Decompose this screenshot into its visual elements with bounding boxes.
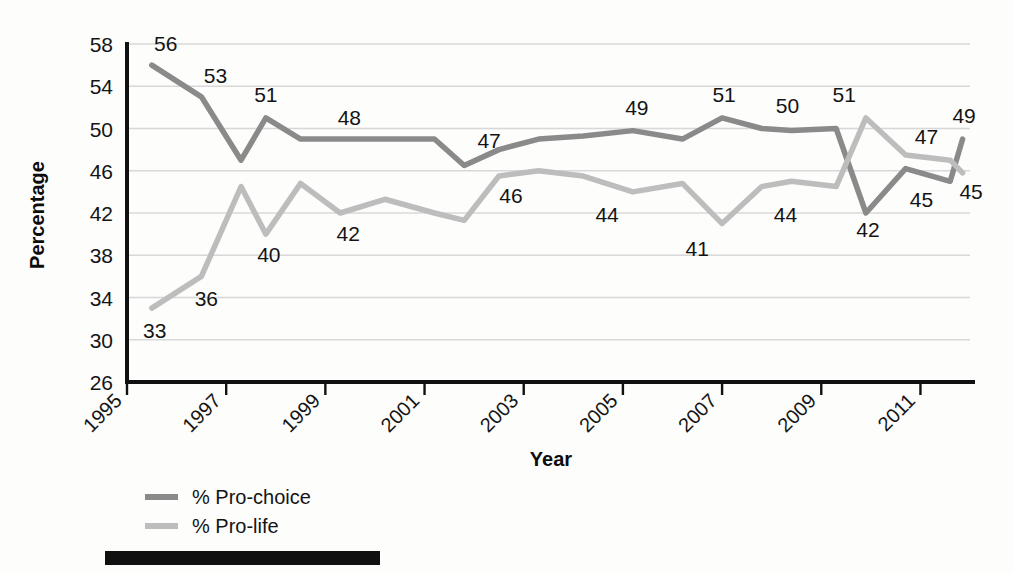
y-tick-label: 42 (90, 202, 113, 225)
chart-container: 585450464238343026 199519971999200120032… (0, 0, 1013, 573)
data-point-label: 51 (712, 83, 735, 106)
y-tick-label: 38 (90, 244, 113, 267)
data-point-label: 44 (595, 203, 619, 226)
x-tick-label: 2001 (376, 389, 423, 436)
data-point-label: 41 (686, 237, 709, 260)
data-point-label: 46 (499, 184, 522, 207)
y-tick-label: 34 (90, 287, 114, 310)
y-tick-label: 46 (90, 160, 113, 183)
x-tick-label: 1997 (178, 389, 225, 436)
data-point-label: 42 (856, 218, 879, 241)
legend: % Pro-choice% Pro-life (145, 486, 311, 537)
legend-label: % Pro-choice (192, 486, 311, 508)
x-tick-label: 2005 (575, 389, 622, 436)
x-tick-label: 2003 (476, 389, 523, 436)
data-point-label: 40 (257, 243, 280, 266)
footer-rule (105, 551, 380, 565)
data-point-label: 47 (477, 129, 500, 152)
data-point-label: 36 (195, 287, 218, 310)
data-point-label: 51 (254, 83, 277, 106)
y-axis-tick-labels: 585450464238343026 (90, 33, 114, 394)
x-tick-label: 1995 (79, 389, 126, 436)
data-point-label: 56 (154, 32, 177, 55)
data-point-label: 45 (959, 180, 982, 203)
legend-label: % Pro-life (192, 515, 279, 537)
data-point-label: 44 (774, 203, 798, 226)
y-tick-label: 54 (90, 75, 114, 98)
x-tick-label: 1999 (277, 389, 324, 436)
y-tick-label: 30 (90, 329, 113, 352)
data-point-label: 49 (952, 104, 975, 127)
x-axis-title: Year (530, 448, 572, 470)
x-axis-tick-labels: 199519971999200120032005200720092011 (79, 389, 919, 436)
x-tick-label: 2009 (773, 389, 820, 436)
data-point-label: 50 (776, 94, 799, 117)
y-tick-label: 50 (90, 118, 113, 141)
y-tick-label: 58 (90, 33, 113, 56)
data-point-label: 51 (832, 83, 855, 106)
data-point-label: 47 (915, 125, 938, 148)
data-point-label: 48 (338, 106, 361, 129)
data-point-label: 42 (337, 222, 360, 245)
y-axis-title: Percentage (26, 161, 48, 269)
x-tick-label: 2007 (674, 389, 721, 436)
data-point-label: 49 (625, 96, 648, 119)
data-point-label: 53 (204, 64, 227, 87)
data-point-label: 33 (143, 319, 166, 342)
x-tick-label: 2011 (873, 389, 919, 435)
line-chart: 585450464238343026 199519971999200120032… (0, 0, 1013, 573)
data-point-label: 45 (910, 188, 933, 211)
